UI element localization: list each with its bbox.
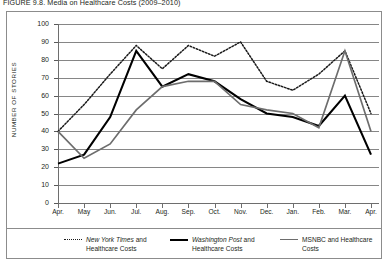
- legend-item[interactable]: Washington Post andHealthcare Costs: [170, 236, 280, 253]
- legend-swatch-dotted-icon: [64, 239, 82, 244]
- legend-label: New York Times andHealthcare Costs: [86, 236, 174, 253]
- legend-item[interactable]: New York Times andHealthcare Costs: [64, 236, 174, 253]
- legend-label: MSNBC and HealthcareCosts: [302, 236, 389, 253]
- legend-item[interactable]: MSNBC and HealthcareCosts: [280, 236, 389, 253]
- legend-swatch-solid-gray-icon: [280, 239, 298, 244]
- legend-outlet-name: New York Times: [86, 236, 134, 243]
- legend-label: Washington Post andHealthcare Costs: [192, 236, 280, 253]
- series-line: [58, 42, 371, 131]
- legend-outlet-name: Washington Post: [192, 236, 242, 243]
- legend-divider: [7, 228, 381, 229]
- series-line: [58, 51, 371, 158]
- chart-plot-area: NUMBER OF STORIES 1009080706050403020100…: [0, 0, 389, 263]
- legend-swatch-solid-black-icon: [170, 239, 188, 245]
- series-lines: [0, 0, 389, 263]
